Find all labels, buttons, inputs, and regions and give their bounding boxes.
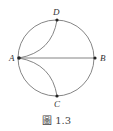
label-b: B (100, 54, 106, 63)
point-c (55, 94, 58, 97)
point-a (17, 56, 21, 60)
point-b (93, 56, 96, 59)
point-d (55, 18, 58, 21)
label-c: C (54, 100, 60, 109)
label-a: A (9, 54, 15, 63)
arc-ac (19, 58, 57, 96)
figure-caption: 圖 1.3 (0, 112, 113, 127)
arc-ad (19, 20, 57, 58)
label-d: D (53, 8, 60, 17)
